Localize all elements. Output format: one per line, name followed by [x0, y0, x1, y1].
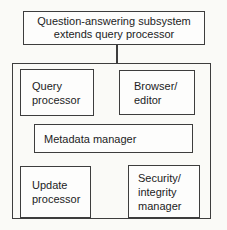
connector-line	[116, 44, 118, 64]
security-integrity-manager-label: Security/ integrity manager	[138, 171, 199, 213]
update-processor-label: Update processor	[32, 178, 90, 206]
module-query-processor: Query processor	[20, 69, 94, 116]
module-metadata-manager: Metadata manager	[34, 124, 193, 153]
browser-editor-label: Browser/ editor	[134, 79, 194, 107]
module-security-integrity-manager: Security/ integrity manager	[128, 165, 200, 218]
title-box: Question-answering subsystem extends que…	[23, 11, 205, 45]
metadata-manager-label: Metadata manager	[44, 132, 136, 146]
title-box-label: Question-answering subsystem extends que…	[37, 15, 190, 42]
block-diagram: Question-answering subsystem extends que…	[0, 0, 227, 230]
query-processor-label: Query processor	[32, 79, 93, 107]
module-update-processor: Update processor	[20, 166, 91, 218]
module-browser-editor: Browser/ editor	[119, 70, 195, 115]
